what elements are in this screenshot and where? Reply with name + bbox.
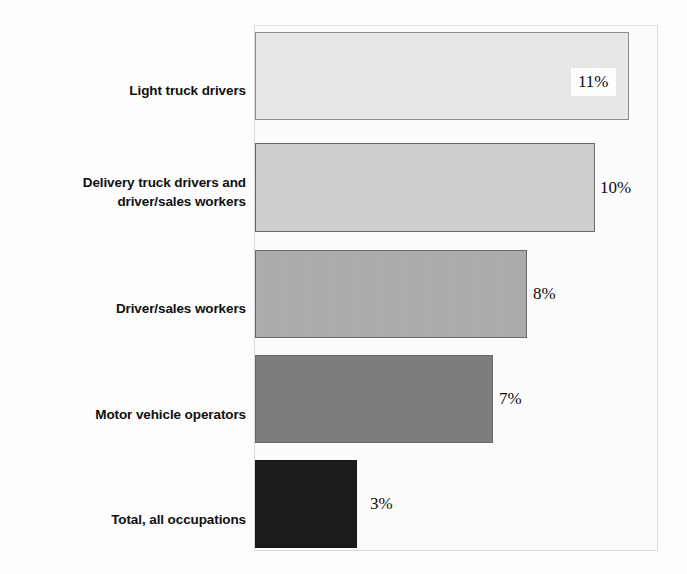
category-label-line: Delivery truck drivers and: [0, 173, 246, 192]
bar-delivery-truck-drivers: [255, 143, 595, 232]
category-label: Light truck drivers: [0, 81, 246, 100]
category-label: Motor vehicle operators: [0, 405, 246, 424]
category-label-line: driver/sales workers: [0, 192, 246, 211]
category-axis-labels: Light truck drivers Delivery truck drive…: [0, 25, 246, 551]
category-label-line: Driver/sales workers: [0, 299, 246, 318]
category-label: Total, all occupations: [0, 510, 246, 529]
bar-value-label: 11%: [571, 68, 616, 96]
bar-motor-vehicle-operators: [255, 355, 493, 443]
bar-value-label: 3%: [370, 495, 393, 512]
category-label-line: Total, all occupations: [0, 510, 246, 529]
category-label: Delivery truck drivers and driver/sales …: [0, 173, 246, 211]
bar-value-label: 7%: [499, 390, 522, 407]
category-label-line: Light truck drivers: [0, 81, 246, 100]
bar-chart: Light truck drivers Delivery truck drive…: [0, 0, 687, 574]
chart-title: [0, 0, 687, 2]
bar-total-all-occupations: [255, 460, 357, 548]
category-label: Driver/sales workers: [0, 299, 246, 318]
bar-driver-sales-workers: [255, 250, 527, 338]
category-label-line: Motor vehicle operators: [0, 405, 246, 424]
bar-value-label: 10%: [600, 179, 631, 196]
bar-value-label: 8%: [533, 285, 556, 302]
